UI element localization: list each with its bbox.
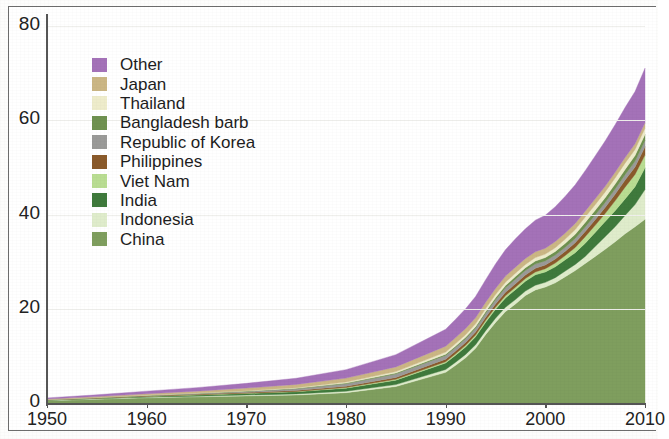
legend-swatch-icon <box>92 77 107 91</box>
legend-swatch-icon <box>92 116 107 130</box>
y-tick-label-20: 20 <box>0 296 40 318</box>
chart-legend: OtherJapanThailandBangladesh barbRepubli… <box>92 55 322 249</box>
legend-swatch-icon <box>92 58 107 72</box>
legend-item-label: Bangladesh barb <box>120 113 249 132</box>
x-tickmark-1960 <box>147 403 148 408</box>
legend-swatch-icon <box>92 213 107 227</box>
y-tick-label-40: 40 <box>0 202 40 224</box>
legend-item-indonesia: Indonesia <box>92 210 322 229</box>
y-tick-label-60: 60 <box>0 107 40 129</box>
legend-item-label: China <box>120 230 164 249</box>
legend-swatch-icon <box>92 155 107 169</box>
legend-item-label: Republic of Korea <box>120 133 255 152</box>
x-tickmark-1970 <box>246 403 247 408</box>
x-tick-label-1970: 1970 <box>216 409 276 430</box>
legend-swatch-icon <box>92 174 107 188</box>
legend-swatch-icon <box>92 96 107 110</box>
x-tick-label-1950: 1950 <box>17 409 77 430</box>
gridline-80 <box>47 26 645 27</box>
legend-item-china: China <box>92 230 322 249</box>
legend-item-republic-of-korea: Republic of Korea <box>92 133 322 152</box>
x-tickmark-1980 <box>346 403 347 408</box>
x-tickmark-2010 <box>645 403 646 408</box>
y-tick-label-80: 80 <box>0 13 40 35</box>
x-tickmark-1950 <box>47 403 48 408</box>
legend-item-india: India <box>92 191 322 210</box>
x-tick-label-1960: 1960 <box>117 409 177 430</box>
legend-swatch-icon <box>92 232 107 246</box>
legend-item-label: India <box>120 191 157 210</box>
legend-swatch-icon <box>92 135 107 149</box>
legend-item-label: Other <box>120 55 163 74</box>
legend-item-philippines: Philippines <box>92 152 322 171</box>
x-tick-label-2010: 2010 <box>615 409 669 430</box>
legend-item-bangladesh-barb: Bangladesh barb <box>92 113 322 132</box>
legend-item-other: Other <box>92 55 322 74</box>
x-tickmark-2000 <box>545 403 546 408</box>
legend-item-viet-nam: Viet Nam <box>92 171 322 190</box>
legend-item-label: Thailand <box>120 94 185 113</box>
legend-item-label: Philippines <box>120 152 202 171</box>
x-tick-label-2000: 2000 <box>515 409 575 430</box>
legend-item-label: Indonesia <box>120 210 194 229</box>
legend-item-thailand: Thailand <box>92 94 322 113</box>
legend-swatch-icon <box>92 193 107 207</box>
legend-item-label: Japan <box>120 75 166 94</box>
gridline-20 <box>47 309 645 310</box>
legend-item-japan: Japan <box>92 74 322 93</box>
legend-item-label: Viet Nam <box>120 172 190 191</box>
y-axis-line <box>46 14 48 406</box>
x-tick-label-1990: 1990 <box>416 409 476 430</box>
x-tick-label-1980: 1980 <box>316 409 376 430</box>
x-tickmark-1990 <box>446 403 447 408</box>
